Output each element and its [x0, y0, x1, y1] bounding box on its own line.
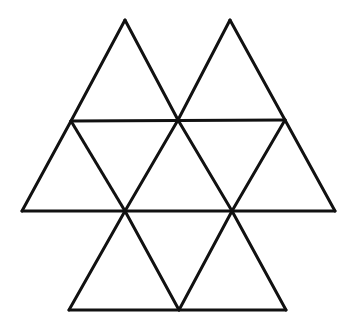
triangle-edge-BD [178, 20, 230, 120]
triangle-edge-CF [22, 121, 71, 211]
triangle-edge-AC [71, 20, 125, 121]
triangle-edge-CG [71, 121, 125, 211]
triangle-edge-EI [285, 120, 335, 211]
triangle-edge-GJ [69, 211, 125, 310]
triangle-edge-BE [230, 20, 285, 120]
triangle-edge-HK [179, 211, 232, 310]
triangle-edge-EH [232, 120, 285, 211]
triangle-figure [0, 0, 355, 332]
triangle-edge-GK [125, 211, 179, 310]
triangle-figure-svg [0, 0, 355, 332]
triangle-edge-HL [232, 211, 286, 310]
triangle-edge-DG [125, 120, 178, 211]
triangle-edge-DH [178, 120, 232, 211]
triangle-edge-AD [125, 20, 178, 120]
